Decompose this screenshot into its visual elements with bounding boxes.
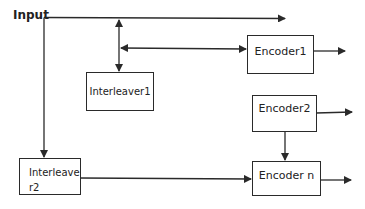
encoder2-output-arrow — [316, 112, 352, 113]
interleaver1-label: Interleaver1 — [89, 86, 150, 97]
encoder1-label: Encoder1 — [255, 45, 307, 58]
input-label: Input — [13, 8, 49, 22]
interleaver1-box: Interleaver1 — [86, 72, 154, 111]
interleaver2-to-encodern-arrow — [80, 178, 251, 179]
to-encoder1-arrow — [121, 48, 246, 49]
encodern-box: Encoder n — [252, 161, 321, 196]
input-top-arrow — [44, 18, 285, 19]
interleaver2-label-line1: Interleave — [29, 165, 80, 180]
interleaver2-box: Interleave r2 — [19, 158, 81, 195]
encodern-label: Encoder n — [259, 169, 314, 182]
encoder2-box: Encoder2 — [252, 95, 317, 132]
interleaver2-label-line2: r2 — [29, 180, 80, 195]
encoder2-label: Encoder2 — [259, 102, 311, 115]
encoder1-box: Encoder1 — [247, 35, 314, 74]
